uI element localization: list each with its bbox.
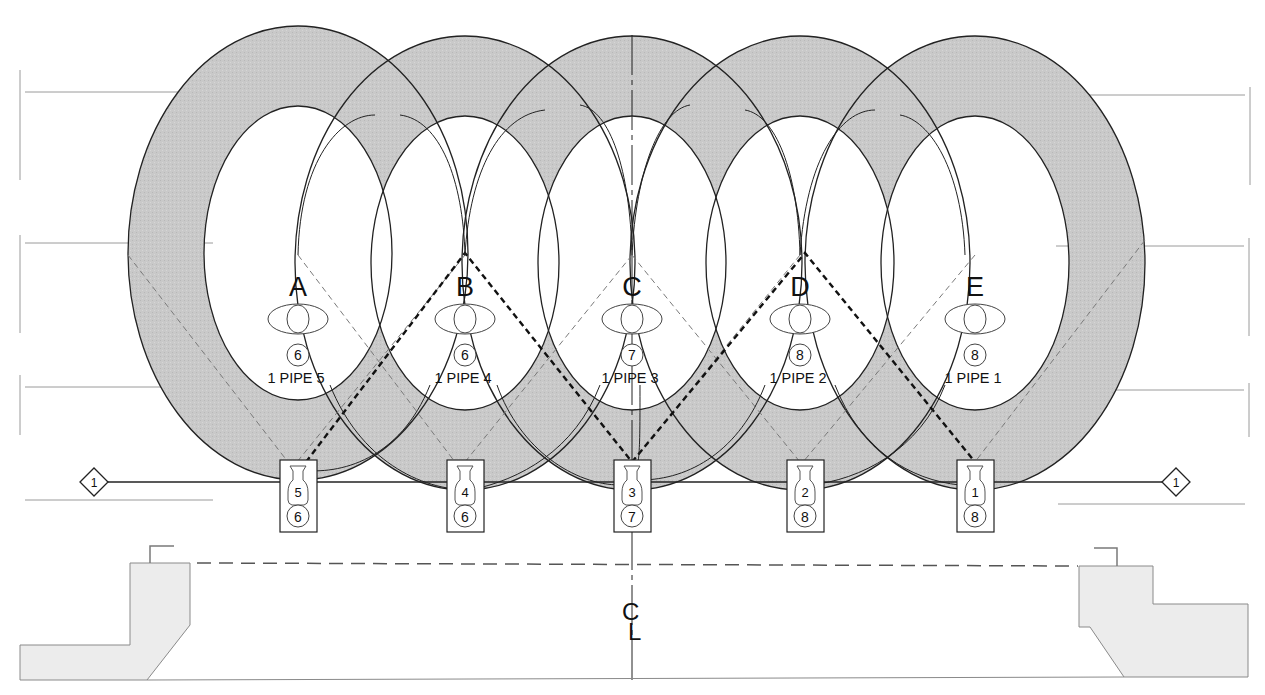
- fixture-number: 2: [801, 485, 808, 500]
- pipe-label: 1 PIPE 1: [944, 370, 1001, 386]
- fixture-number: 3: [628, 485, 635, 500]
- unit-type-number: 7: [628, 347, 636, 363]
- fixture-4: 46: [447, 460, 484, 532]
- fixture-number: 1: [971, 485, 978, 500]
- performer-area-icon: [435, 304, 495, 334]
- area-letter: B: [456, 272, 474, 302]
- area-letter: D: [790, 272, 810, 302]
- fixture-number: 5: [294, 485, 301, 500]
- performer-area-icon: [770, 304, 830, 334]
- unit-type-number: 8: [971, 347, 979, 363]
- area-letter: C: [622, 272, 642, 302]
- plot-canvas: CL 11 A61 PIPE 5B61 PIPE 4C71 PIPE 3D81 …: [0, 0, 1265, 695]
- pipe-tag-number: 1: [91, 476, 98, 490]
- unit-type-number: 6: [294, 347, 302, 363]
- performer-area-icon: [602, 304, 662, 334]
- fixture-type-number: 7: [628, 509, 636, 525]
- fixture-1: 18: [957, 460, 994, 532]
- fixture-type-number: 6: [461, 509, 469, 525]
- performer-area-icon: [268, 304, 328, 334]
- area-letter: E: [966, 272, 984, 302]
- fixture-2: 28: [787, 460, 824, 532]
- fixture-number: 4: [461, 485, 468, 500]
- fixture-type-number: 8: [801, 509, 809, 525]
- performer-area-icon: [945, 304, 1005, 334]
- fixture-type-number: 8: [971, 509, 979, 525]
- fixture-5: 56: [280, 460, 317, 532]
- pipe-label: 1 PIPE 3: [601, 370, 658, 386]
- unit-type-number: 6: [461, 347, 469, 363]
- area-letter: A: [289, 272, 307, 302]
- pipe-label: 1 PIPE 5: [267, 370, 324, 386]
- pipe-label: 1 PIPE 4: [434, 370, 491, 386]
- fixture-type-number: 6: [294, 509, 302, 525]
- lighting-plot-diagram: CL 11 A61 PIPE 5B61 PIPE 4C71 PIPE 3D81 …: [0, 0, 1265, 695]
- pipe-tag-number: 1: [1173, 476, 1180, 490]
- pipe-label: 1 PIPE 2: [769, 370, 826, 386]
- centerline-symbol-l: L: [628, 618, 641, 645]
- unit-type-number: 8: [796, 347, 804, 363]
- fixture-3: 37: [614, 460, 651, 532]
